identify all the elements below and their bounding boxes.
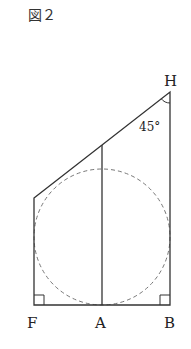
right-angle-mark-b (160, 295, 170, 305)
label-a: A (94, 314, 106, 332)
geometry-diagram: H 45° F A B (0, 0, 191, 349)
angle-arc-h (161, 99, 170, 103)
label-angle: 45° (139, 120, 160, 134)
label-f: F (27, 314, 37, 332)
label-b: B (164, 314, 175, 332)
right-angle-mark-f (34, 295, 44, 305)
label-h: H (164, 72, 177, 90)
